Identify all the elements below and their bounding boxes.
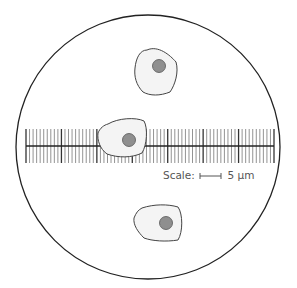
scale-label: Scale:: [163, 169, 195, 181]
cell-nucleus: [160, 217, 173, 230]
cell-nucleus: [123, 134, 136, 147]
diagram-canvas: [0, 0, 297, 288]
microscope-diagram: Scale: 5 µm: [0, 0, 297, 288]
cell-nucleus: [153, 60, 166, 73]
scale-legend: Scale: 5 µm: [163, 169, 254, 181]
scale-value: 5 µm: [227, 169, 254, 181]
